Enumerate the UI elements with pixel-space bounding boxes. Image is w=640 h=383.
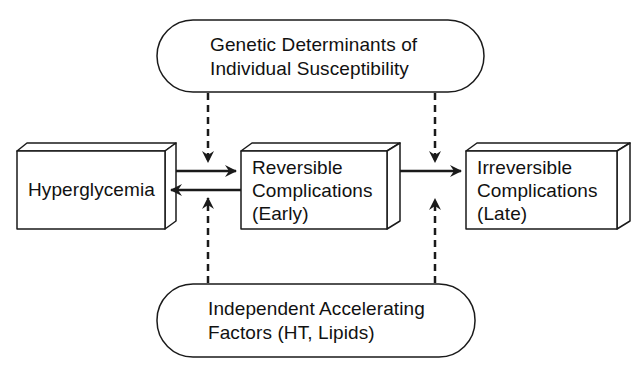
irreversible-label-line1: Irreversible: [477, 156, 572, 179]
genetic-label-line1: Genetic Determinants of: [210, 33, 417, 56]
irreversible-label-line2: Complications: [477, 179, 598, 202]
hyperglycemia-label: Hyperglycemia: [28, 178, 155, 201]
reversible-label-line3: (Early): [252, 202, 309, 225]
reversible-label-line2: Complications: [252, 179, 373, 202]
genetic-label-line2: Individual Susceptibility: [210, 57, 409, 80]
accelerating-label-line1: Independent Accelerating: [208, 297, 425, 320]
genetic-determinants-node: [157, 20, 484, 92]
irreversible-label-line3: (Late): [477, 202, 527, 225]
reversible-label-line1: Reversible: [252, 156, 343, 179]
accelerating-label-line2: Factors (HT, Lipids): [208, 321, 375, 344]
